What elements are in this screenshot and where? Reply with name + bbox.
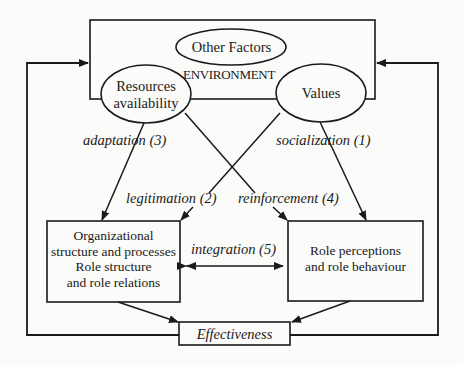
legitimation-label: legitimation (2) [126, 190, 217, 206]
org-line-2: structure and processes [47, 244, 180, 260]
role-line-1: Role perceptions [288, 243, 423, 259]
org-to-effectiveness-arrow [118, 302, 178, 322]
effectiveness-label: Effectiveness [179, 326, 290, 342]
environment-label: ENVIRONMENT [183, 67, 275, 83]
role-perceptions-text: Role perceptions and role behaviour [288, 243, 423, 274]
resources-label: Resources availability [101, 78, 191, 112]
resources-line-2: availability [101, 95, 191, 112]
adaptation-label: adaptation (3) [83, 132, 166, 148]
other-factors-label: Other Factors [176, 39, 287, 55]
role-line-2: and role behaviour [288, 259, 423, 275]
legitimation-arrow [181, 207, 193, 220]
reinforcement-label: reinforcement (4) [238, 190, 339, 206]
integration-label: integration (5) [191, 241, 276, 257]
reinforcement-arrow [273, 207, 287, 220]
values-label: Values [276, 85, 366, 101]
org-structure-text: Organizational structure and processes R… [47, 228, 180, 290]
org-line-1: Organizational [47, 228, 180, 244]
org-line-4: and role relations [47, 275, 180, 291]
org-line-3: Role structure [47, 259, 180, 275]
resources-line-1: Resources [101, 78, 191, 95]
role-to-effectiveness-arrow [292, 301, 350, 322]
socialization-label: socialization (1) [276, 132, 371, 148]
